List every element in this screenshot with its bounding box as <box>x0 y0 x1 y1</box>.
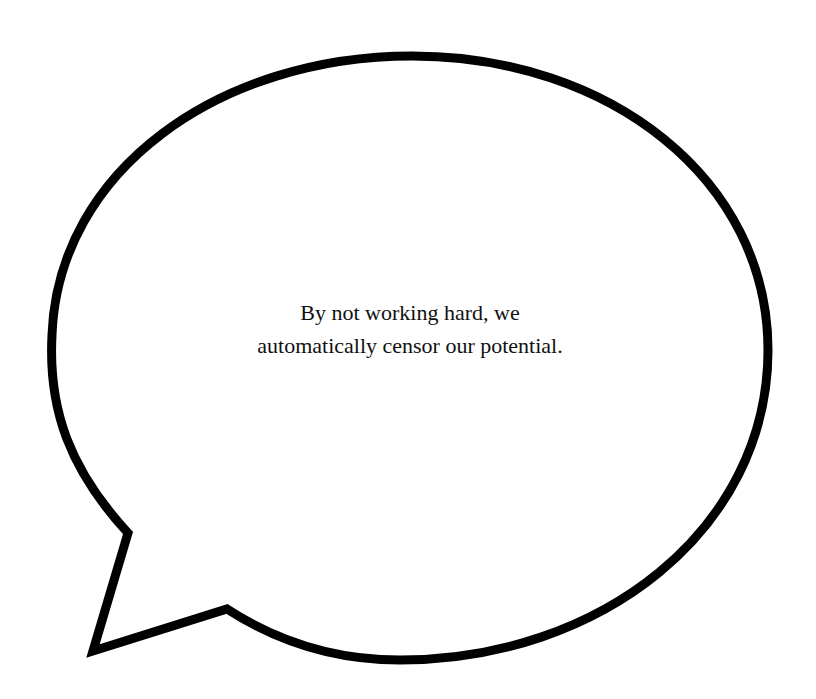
speech-bubble-text: By not working hard, we automatically ce… <box>160 296 660 362</box>
speech-line-1: By not working hard, we <box>160 296 660 329</box>
speech-line-2: automatically censor our potential. <box>160 329 660 362</box>
